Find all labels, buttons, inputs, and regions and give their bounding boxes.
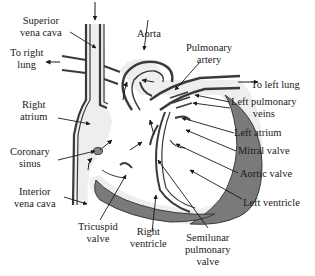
label-aortic-valve: Aortic valve <box>240 168 292 180</box>
label-semilunar-pulmonary-valve: Semilunar pulmonary valve <box>185 232 231 268</box>
label-left-atrium: Left atrium <box>234 127 282 139</box>
label-right-ventricle: Right ventricle <box>130 226 167 250</box>
label-pulmonary-artery: Pulmonary artery <box>186 42 232 66</box>
label-to-left-lung: To left lung <box>251 79 300 91</box>
label-superior-vena-cava: Superior vena cava <box>20 15 62 39</box>
label-right-atrium: Right atrium <box>20 99 47 123</box>
label-tricuspid-valve: Tricuspid valve <box>78 221 118 245</box>
label-interior-vena-cava: Interior vena cava <box>14 186 56 210</box>
label-mitral-valve: Mitral valve <box>238 145 290 157</box>
label-aorta: Aorta <box>137 28 161 40</box>
label-coronary-sinus: Coronary sinus <box>10 146 50 170</box>
label-left-pulmonary-veins: Left pulmonary veins <box>231 96 297 120</box>
label-left-ventricle: Left ventricle <box>243 197 300 209</box>
valves <box>102 116 190 178</box>
label-to-right-lung: To right lung <box>10 47 43 71</box>
